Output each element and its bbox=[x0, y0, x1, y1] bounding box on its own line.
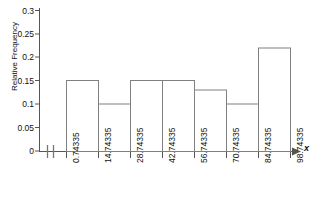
x-tick-label-1: 14.74335 bbox=[103, 128, 113, 163]
x-tick-label-5: 70.74335 bbox=[231, 128, 241, 163]
y-axis-group bbox=[35, 8, 40, 152]
x-tick-label-0: 0.74335 bbox=[71, 132, 81, 163]
x-tick-label-2: 28.74335 bbox=[135, 128, 145, 163]
x-axis-title: x bbox=[304, 143, 309, 153]
x-tick-label-3: 42.74335 bbox=[167, 128, 177, 163]
bars-group bbox=[67, 48, 291, 152]
x-tick-label-4: 56.74335 bbox=[199, 128, 209, 163]
x-tick-label-6: 84.74335 bbox=[263, 128, 273, 163]
chart-canvas bbox=[0, 0, 316, 224]
histogram-chart: Relative Frequency 0.3 0.25 0.2 0.15 0.1… bbox=[0, 0, 316, 224]
